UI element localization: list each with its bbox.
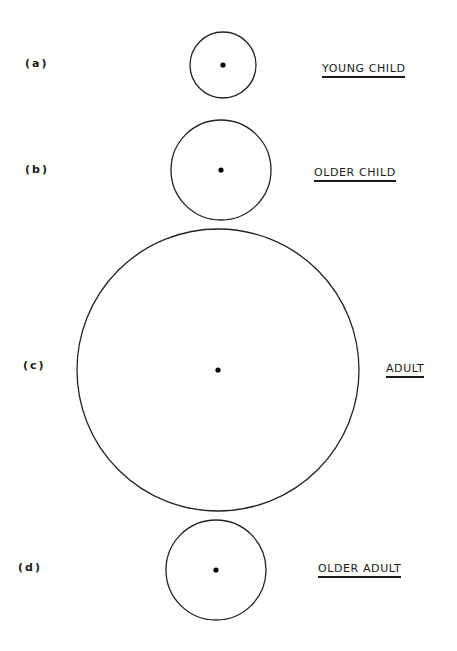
- panel-d-circle-group: [166, 520, 266, 620]
- adult-center-dot: [215, 367, 220, 372]
- label-adult: ADULT: [386, 362, 424, 378]
- panel-b-circle-group: [171, 120, 271, 220]
- panel-letter-d: (d): [18, 562, 42, 574]
- young-child-center-dot: [220, 62, 225, 67]
- panel-c-circle-group: [77, 229, 359, 511]
- older-adult-center-dot: [213, 567, 218, 572]
- label-young-child: YOUNG CHILD: [322, 62, 405, 78]
- panel-letter-a: (a): [25, 58, 48, 70]
- label-older-adult: OLDER ADULT: [318, 562, 401, 578]
- panel-letter-b: (b): [25, 164, 49, 176]
- panel-a-circle-group: [190, 32, 256, 98]
- circles-diagram: [0, 0, 457, 651]
- older-child-center-dot: [218, 167, 223, 172]
- label-older-child: OLDER CHILD: [314, 166, 396, 182]
- panel-letter-c: (c): [23, 360, 46, 372]
- figure-canvas: (a) YOUNG CHILD (b) OLDER CHILD (c) ADUL…: [0, 0, 457, 651]
